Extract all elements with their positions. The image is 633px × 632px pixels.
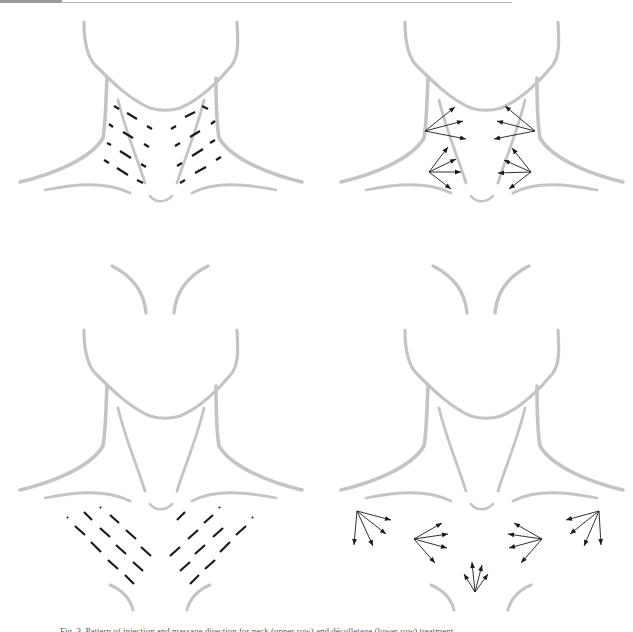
injection-line-mark [204, 515, 213, 523]
arrowhead-icon [385, 516, 391, 521]
right-neck-shoulder-outline [537, 386, 623, 490]
injection-line-mark [116, 545, 126, 554]
massage-arrow-group [352, 511, 603, 592]
arrowhead-icon [441, 544, 447, 549]
left-chin-curve [433, 266, 467, 313]
arrowhead-icon [436, 523, 442, 528]
injection-line-mark [84, 512, 92, 520]
arrowhead-icon [455, 170, 461, 175]
injection-line-mark [195, 167, 206, 173]
injection-line-mark [107, 143, 111, 145]
arrowhead-icon [570, 528, 576, 534]
injection-line-mark [195, 545, 205, 554]
arrowhead-icon [470, 562, 475, 568]
arrowhead-icon [460, 135, 466, 140]
neck-illustration [321, 0, 633, 210]
injection-line-mark [205, 560, 215, 569]
left-neck-shoulder-outline [20, 386, 107, 490]
arrowhead-icon [445, 183, 451, 189]
injection-line-mark [108, 560, 118, 569]
injection-line-mark [210, 140, 215, 143]
arrowhead-icon [478, 565, 483, 571]
right-scm-muscle [498, 100, 525, 183]
arrowhead-icon [464, 574, 469, 580]
right-clavicle [513, 185, 597, 193]
injection-line-mark [211, 121, 215, 124]
panel-decolletage-massage-direction [321, 250, 633, 595]
injection-line-mark [67, 517, 68, 518]
injection-line-mark [141, 547, 151, 556]
injection-line-mark [75, 526, 85, 535]
neck-illustration [0, 0, 312, 210]
arrowhead-icon [494, 135, 500, 140]
arrowhead-icon [450, 159, 456, 164]
injection-line-mark [117, 168, 128, 175]
left-scm-muscle [439, 100, 466, 183]
injection-line-mark [213, 528, 223, 537]
arrowhead-icon [566, 516, 572, 521]
arrowhead-icon [509, 183, 515, 189]
sternal-notch [471, 504, 493, 509]
injection-line-mark [127, 113, 137, 119]
injection-line-mark [137, 180, 143, 183]
right-clavicle [192, 493, 276, 501]
injection-line-mark [188, 530, 198, 539]
injection-line-mark [192, 149, 203, 156]
injection-line-mark [91, 542, 101, 552]
right-clavicle [192, 185, 276, 193]
right-neck-shoulder-outline [216, 78, 302, 182]
neck-outline-group [341, 266, 623, 610]
right-neck-shoulder-outline [537, 78, 623, 182]
panel-neck-injection-lines [0, 0, 312, 210]
panel-decolletage-injection-lines [0, 250, 312, 595]
left-breast-contour [431, 585, 454, 610]
injection-line-mark [216, 157, 221, 160]
arrowhead-icon [598, 539, 603, 545]
right-breast-contour [508, 585, 531, 610]
arrowhead-icon [380, 528, 386, 534]
injection-line-mark [109, 124, 113, 127]
injection-line-mark [100, 507, 101, 508]
left-neck-shoulder-outline [341, 78, 428, 182]
neck-outline-group [20, 266, 302, 610]
sternal-notch [471, 196, 493, 201]
injection-line-mark [177, 163, 182, 166]
arrowhead-icon [442, 532, 448, 537]
left-scm-muscle [439, 408, 466, 491]
neck-illustration [0, 250, 312, 595]
left-chin-curve [112, 266, 146, 313]
injection-line-mark [120, 151, 131, 158]
injection-line-mark [171, 126, 176, 129]
right-neck-shoulder-outline [216, 386, 302, 490]
massage-direction-arrow [425, 131, 466, 139]
injection-line-mark [141, 164, 146, 167]
injection-line-mark [110, 515, 119, 523]
arrowhead-icon [512, 148, 518, 154]
left-clavicle [45, 185, 130, 193]
arrowhead-icon [368, 540, 373, 546]
injection-line-mark [190, 575, 199, 584]
injection-line-mark [104, 160, 109, 163]
figure-caption: Fig. 3. Pattern of injection and massage… [60, 624, 580, 632]
injection-line-mark [175, 143, 180, 146]
arrowhead-icon [509, 544, 515, 549]
arrowhead-icon [497, 120, 503, 125]
injection-line-mark [236, 526, 246, 535]
left-scm-muscle [118, 408, 145, 491]
injection-line-mark [219, 507, 220, 508]
injection-line-mark [180, 180, 185, 183]
injection-line-mark [177, 512, 185, 520]
sternal-notch [150, 196, 172, 201]
right-chin-curve [495, 266, 529, 313]
sternal-notch [150, 504, 172, 509]
arrowhead-icon [457, 120, 463, 125]
arrowhead-icon [514, 523, 520, 528]
injection-line-mark [133, 562, 143, 571]
left-neck-shoulder-outline [341, 386, 428, 490]
neck-outline-group [20, 22, 302, 201]
neck-outline-group [341, 22, 623, 201]
injection-line-mark [252, 517, 253, 518]
injection-line-mark [100, 528, 110, 537]
right-scm-muscle [177, 408, 204, 491]
injection-line-mark [126, 530, 136, 539]
